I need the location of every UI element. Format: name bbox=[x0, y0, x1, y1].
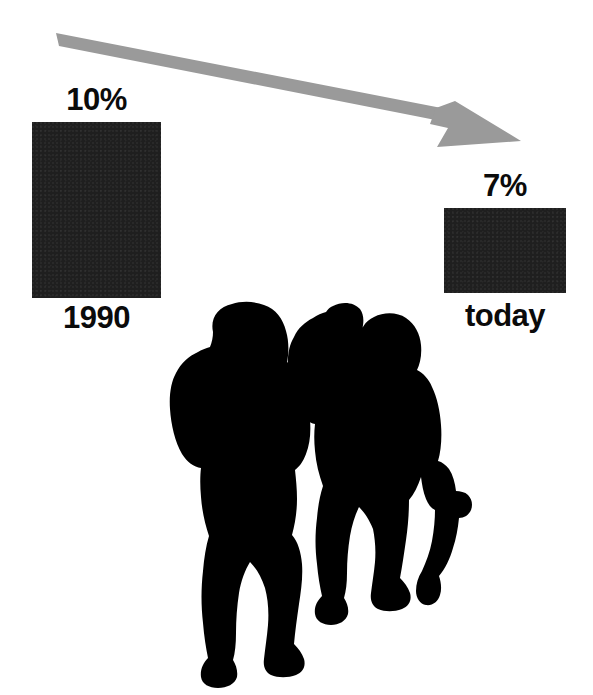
children-silhouettes bbox=[140, 296, 480, 695]
child-silhouette-small-icon bbox=[288, 303, 472, 625]
infographic-canvas: 10% 1990 7% today bbox=[0, 0, 593, 695]
arrow-head bbox=[430, 101, 521, 147]
bar-today bbox=[444, 208, 566, 293]
bar-1990 bbox=[32, 122, 161, 298]
bar-value-label-1990: 10% bbox=[32, 84, 161, 115]
bar-value-label-today: 7% bbox=[444, 170, 566, 201]
